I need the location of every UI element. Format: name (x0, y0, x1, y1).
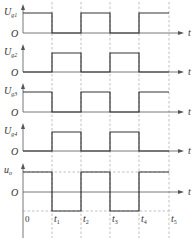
time-axis-label: t (188, 186, 191, 197)
time-axis-label: t (188, 145, 191, 156)
channel-label-Ug2: Ug2 (4, 46, 17, 58)
time-mark-t2: t2 (83, 213, 89, 225)
time-axis-label: t (188, 106, 191, 117)
time-mark-t1: t1 (54, 213, 60, 225)
origin-label: O (11, 187, 18, 198)
time-mark-t4: t4 (141, 213, 147, 225)
time-mark-t3: t3 (112, 213, 118, 225)
time-mark-t5: t5 (171, 213, 177, 225)
origin-label: O (11, 67, 18, 78)
waveform-Ug2 (23, 53, 169, 72)
arrow-right-icon (178, 149, 184, 153)
channel-label-Ug1: Ug1 (4, 6, 17, 18)
arrow-up-icon (21, 163, 25, 169)
waveform-Ug1 (23, 13, 169, 33)
output-label: uo (4, 164, 12, 176)
waveform-Ug4 (23, 132, 169, 151)
origin-label: O (11, 146, 18, 157)
channel-label-Ug4: Ug4 (4, 125, 17, 137)
origin-label: O (11, 107, 18, 118)
timing-diagram: tOUg1tOUg2tOUg3tOUg4tuoO0t1t2t3t4t5 (0, 0, 193, 241)
arrow-up-icon (21, 44, 25, 50)
time-axis-label: t (188, 27, 191, 38)
time-axis-label: t (188, 66, 191, 77)
waveform-output (23, 172, 169, 211)
arrow-right-icon (178, 31, 184, 35)
arrow-right-icon (178, 190, 184, 194)
zero-label: 0 (25, 214, 30, 224)
origin-label: O (11, 28, 18, 39)
waveform-Ug3 (23, 92, 169, 112)
arrow-up-icon (21, 123, 25, 129)
arrow-up-icon (21, 4, 25, 10)
arrow-right-icon (178, 70, 184, 74)
channel-label-Ug3: Ug3 (4, 85, 17, 97)
arrow-right-icon (178, 110, 184, 114)
arrow-up-icon (21, 83, 25, 89)
